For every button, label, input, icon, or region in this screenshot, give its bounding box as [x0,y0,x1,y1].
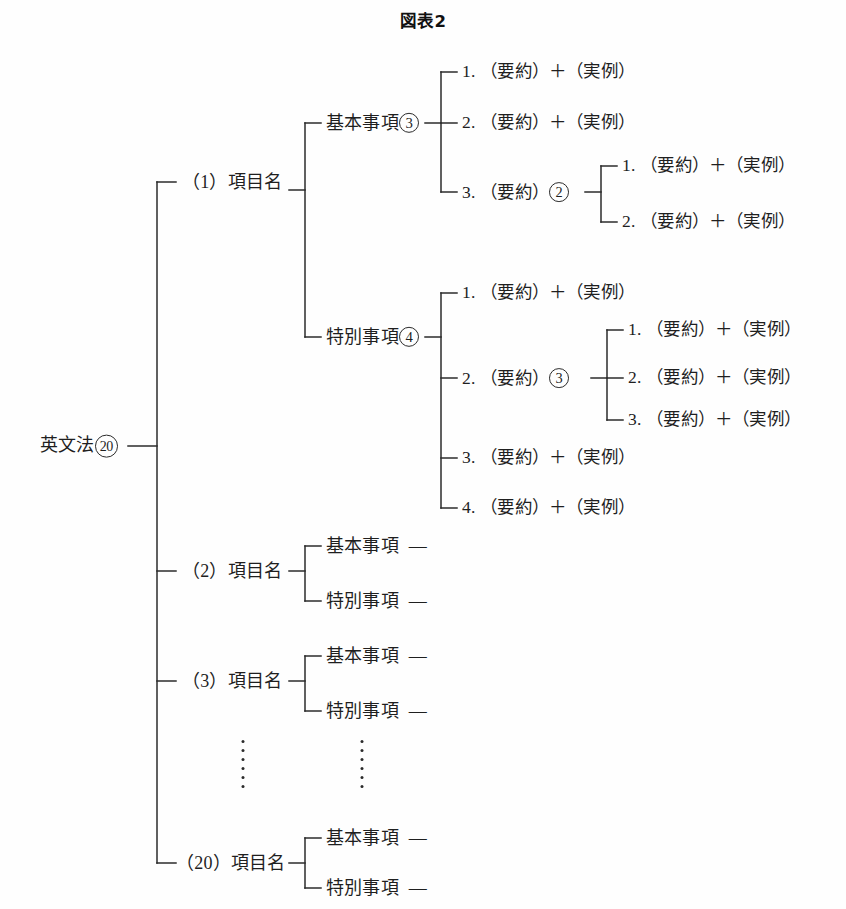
root-node[interactable]: 英文法20 [40,435,118,458]
basic-item-2[interactable]: 2. （要約）＋（実例） [462,114,635,132]
special-item-1-text: （要約）＋（実例） [480,282,635,302]
special-item-3[interactable]: 3. （要約）＋（実例） [462,449,635,467]
tree-connector-lines [0,0,846,909]
group-label-basic-2: 基本事項 [326,536,399,556]
special-item-2-count-badge: 3 [549,368,569,388]
ellipsis-dot [242,776,245,779]
special-item-4-text: （要約）＋（実例） [480,497,635,517]
special-item-2[interactable]: 2. （要約）3 [462,368,569,388]
group-label-special-1: 特別事項 [326,327,399,347]
level1-label-1: 項目名 [228,172,283,192]
level1-label-2: 項目名 [228,561,283,581]
special-item-4-number: 4. [462,497,476,517]
group-count-badge-basic-1: 3 [399,113,419,133]
group-label-special-3: 特別事項 [326,701,399,721]
basic-sub-item-2-text: （要約）＋（実例） [640,211,795,231]
level1-index-20: （20） [176,853,231,873]
special-item-1[interactable]: 1. （要約）＋（実例） [462,284,635,302]
basic-sub-item-2[interactable]: 2. （要約）＋（実例） [622,213,795,231]
group-label-basic-1: 基本事項 [326,113,399,133]
ellipsis-dot [242,785,245,788]
group-label-special-2: 特別事項 [326,591,399,611]
special-sub-item-1[interactable]: 1. （要約）＋（実例） [628,321,801,339]
ellipsis-dot [361,758,364,761]
root-count-badge: 20 [95,435,118,458]
group-node-basic-3[interactable]: 基本事項— [326,647,427,665]
level1-index-1: （1） [182,172,228,192]
ellipsis-dot [361,785,364,788]
level1-node-1[interactable]: （1）項目名 [182,173,282,191]
basic-item-3[interactable]: 3. （要約）2 [462,182,569,202]
ellipsis-dot [361,767,364,770]
group-dash-basic-2: — [409,537,427,555]
basic-sub-item-1-number: 1. [622,155,636,175]
level1-index-3: （3） [182,671,228,691]
ellipsis-dot [361,740,364,743]
special-sub-item-1-text: （要約）＋（実例） [646,319,801,339]
level1-label-3: 項目名 [228,671,283,691]
group-dash-basic-20: — [409,829,427,847]
ellipsis-right [361,740,364,788]
group-node-special-2[interactable]: 特別事項— [326,592,427,610]
basic-sub-item-1-text: （要約）＋（実例） [640,155,795,175]
level1-node-3[interactable]: （3）項目名 [182,672,282,690]
level1-label-20: 項目名 [231,853,286,873]
level1-node-2[interactable]: （2）項目名 [182,562,282,580]
group-label-special-20: 特別事項 [326,878,399,898]
ellipsis-dot [242,758,245,761]
special-item-3-number: 3. [462,447,476,467]
group-node-special-20[interactable]: 特別事項— [326,879,427,897]
special-sub-item-2[interactable]: 2. （要約）＋（実例） [628,369,801,387]
group-label-basic-3: 基本事項 [326,646,399,666]
basic-item-3-count-badge: 2 [549,182,569,202]
group-node-special-3[interactable]: 特別事項— [326,702,427,720]
group-dash-special-3: — [409,702,427,720]
basic-item-3-text: （要約） [480,182,549,202]
basic-sub-item-2-number: 2. [622,211,636,231]
ellipsis-dot [242,740,245,743]
level1-node-20[interactable]: （20）項目名 [176,854,285,872]
group-count-badge-special-1: 4 [399,327,419,347]
special-sub-item-2-number: 2. [628,367,642,387]
group-node-special-1[interactable]: 特別事項4 [326,327,419,347]
basic-sub-item-1[interactable]: 1. （要約）＋（実例） [622,157,795,175]
root-label: 英文法 [40,435,95,455]
special-sub-item-3-number: 3. [628,409,642,429]
group-node-basic-1[interactable]: 基本事項3 [326,113,419,133]
ellipsis-dot [242,749,245,752]
group-dash-basic-3: — [409,647,427,665]
basic-item-3-number: 3. [462,182,476,202]
group-dash-special-2: — [409,592,427,610]
ellipsis-left [242,740,245,788]
group-label-basic-20: 基本事項 [326,828,399,848]
basic-item-1-text: （要約）＋（実例） [480,61,635,81]
group-node-basic-20[interactable]: 基本事項— [326,829,427,847]
group-dash-special-20: — [409,879,427,897]
special-sub-item-3-text: （要約）＋（実例） [646,409,801,429]
basic-item-1[interactable]: 1. （要約）＋（実例） [462,63,635,81]
figure-title: 図表2 [0,8,846,32]
special-item-1-number: 1. [462,282,476,302]
ellipsis-dot [361,749,364,752]
basic-item-2-text: （要約）＋（実例） [480,112,635,132]
special-sub-item-2-text: （要約）＋（実例） [646,367,801,387]
special-item-3-text: （要約）＋（実例） [480,447,635,467]
special-item-2-number: 2. [462,368,476,388]
special-sub-item-3[interactable]: 3. （要約）＋（実例） [628,411,801,429]
figure-page: 図表2 [0,0,846,909]
ellipsis-dot [361,776,364,779]
basic-item-1-number: 1. [462,61,476,81]
special-item-2-text: （要約） [480,368,549,388]
basic-item-2-number: 2. [462,112,476,132]
ellipsis-dot [242,767,245,770]
special-item-4[interactable]: 4. （要約）＋（実例） [462,499,635,517]
group-node-basic-2[interactable]: 基本事項— [326,537,427,555]
special-sub-item-1-number: 1. [628,319,642,339]
level1-index-2: （2） [182,561,228,581]
